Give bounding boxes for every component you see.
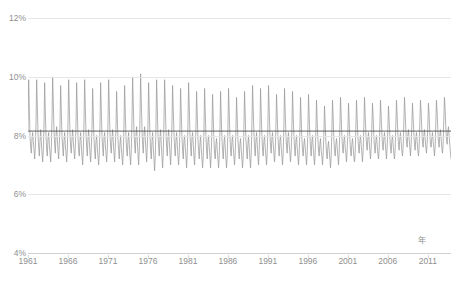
x-tick-label: 2001 [338,256,357,266]
gridline-12% [28,18,451,19]
chart-container: 4%6%8%10%12% 196119661971197619811986199… [0,0,460,289]
x-axis-title: 年 [418,234,426,245]
gridline-8% [28,136,451,137]
gridline-6% [28,194,451,195]
x-tick-label: 1971 [98,256,117,266]
x-tick-label: 1981 [178,256,197,266]
x-axis-baseline [28,253,451,254]
x-tick-label: 1966 [59,256,78,266]
y-axis-ticks: 4%6%8%10%12% [0,18,26,253]
gridline-10% [28,77,451,78]
series-line-monthly-rate [28,74,451,171]
x-tick-label: 1961 [19,256,38,266]
y-tick-label: 8% [0,131,26,141]
x-tick-label: 1991 [258,256,277,266]
plot-area [28,18,451,253]
x-tick-label: 1976 [138,256,157,266]
y-tick-label: 10% [0,72,26,82]
x-axis-ticks: 1961196619711976198119861991199620012006… [28,255,451,273]
y-tick-label: 6% [0,189,26,199]
y-tick-label: 12% [0,13,26,23]
x-tick-label: 1986 [218,256,237,266]
x-tick-label: 2006 [378,256,397,266]
x-tick-label: 1996 [298,256,317,266]
x-tick-label: 2011 [419,256,437,266]
